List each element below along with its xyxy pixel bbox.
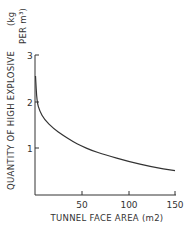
x-tick-label-150: 150 (166, 200, 183, 210)
y-axis-unit-b: PER m³) (18, 8, 28, 44)
x-tick-label-100: 100 (120, 200, 137, 210)
y-axis-unit-a: (kg (6, 11, 16, 26)
x-axis-label: TUNNEL FACE AREA (m2) (50, 213, 164, 223)
data-line (36, 76, 176, 171)
y-tick-label-3: 3 (27, 51, 33, 61)
chart: 3 2 1 50 100 150 TUNNEL FACE AREA (m2) Q… (0, 0, 190, 231)
x-tick-label-50: 50 (76, 200, 88, 210)
y-axis-label: QUANTITY OF HIGH EXPLOSIVE (6, 51, 16, 190)
y-tick-label-1: 1 (27, 144, 33, 154)
y-tick-label-2: 2 (27, 98, 33, 108)
